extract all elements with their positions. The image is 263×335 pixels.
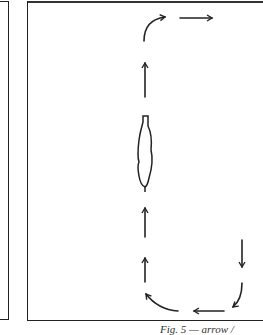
figure-caption: Fig. 5 — arrow / (160, 323, 234, 335)
curve-up-right-arrow-icon (144, 17, 165, 41)
horse-figure-icon (138, 116, 152, 187)
curve-left-up-arrow-icon (146, 294, 178, 311)
curve-down-left-arrow-icon (233, 283, 242, 307)
